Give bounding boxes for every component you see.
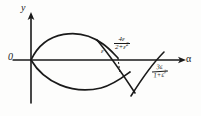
plot-svg	[0, 0, 201, 116]
figure-canvas: y α 0 ε 4ε 2+ε2 3ε 1+ε2	[0, 0, 201, 116]
y-axis-label: y	[21, 3, 25, 13]
epsilon-marker-label: ε	[101, 48, 104, 55]
lower-fraction-denominator-exponent: 2	[164, 70, 167, 75]
upper-lens-curve	[31, 34, 118, 60]
y-axis	[28, 12, 35, 103]
upper-fraction-label: 4ε 2+ε2	[114, 36, 130, 52]
lower-fraction-label: 3ε 1+ε2	[151, 63, 168, 80]
upper-fraction-denominator: 2+ε2	[114, 43, 130, 51]
upper-fraction-denominator-base: 2+ε	[115, 43, 126, 51]
lower-fraction-denominator: 1+ε2	[152, 71, 168, 80]
lower-fraction-denominator-base: 1+ε	[153, 71, 165, 80]
origin-label: 0	[8, 52, 13, 62]
upper-fraction-denominator-exponent: 2	[126, 42, 129, 47]
x-axis-label: α	[186, 54, 191, 64]
